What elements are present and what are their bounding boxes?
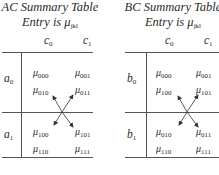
cross-arrows-icon bbox=[0, 0, 100, 175]
bc-summary-table: BC Summary Table Entry is μjkl c0 c1 b0 … bbox=[123, 0, 219, 175]
ac-summary-table: AC Summary Table Entry is μjkl c0 c1 a0 … bbox=[0, 0, 100, 175]
cross-arrows-icon bbox=[123, 0, 219, 175]
